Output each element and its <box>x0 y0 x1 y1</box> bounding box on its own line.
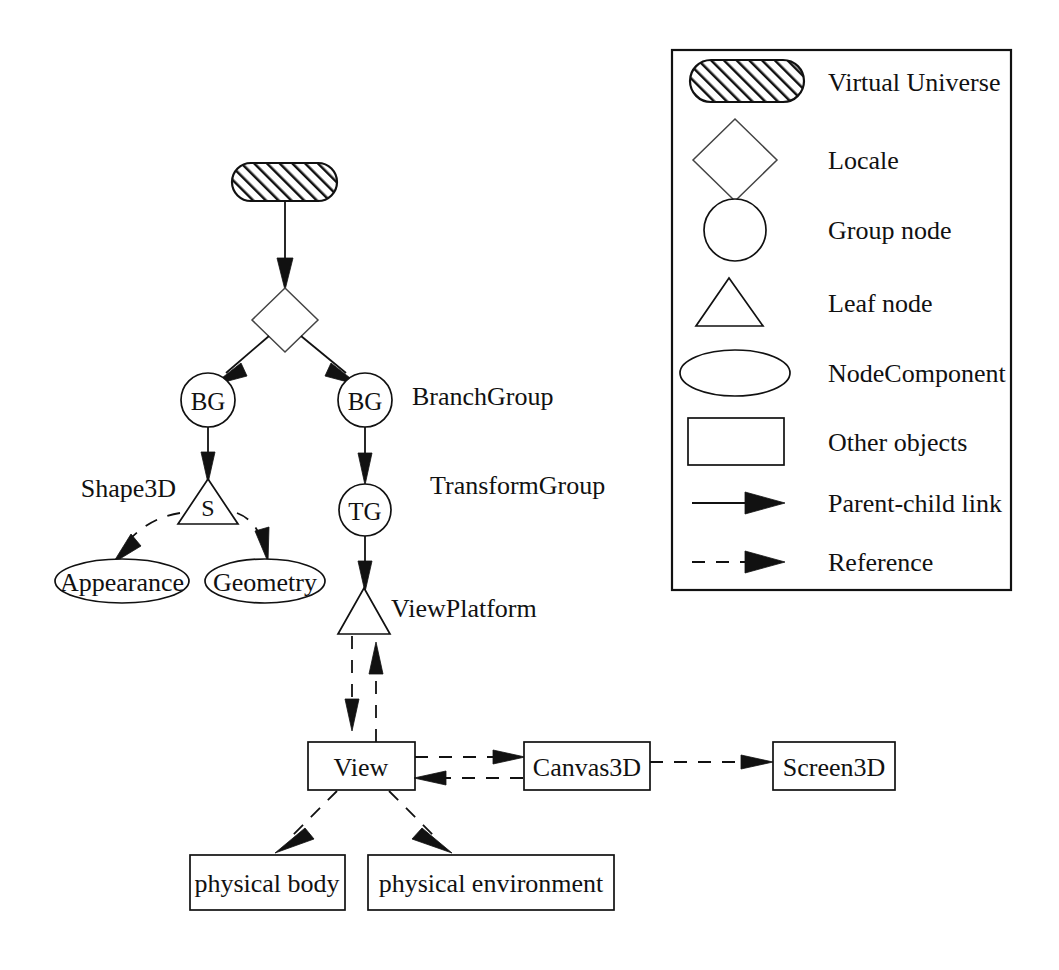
scene-graph-svg: BG BG BranchGroup S Shape3D <box>0 0 1059 970</box>
locale-icon <box>693 119 777 201</box>
bg-left-label: BG <box>191 388 226 415</box>
legend-label-group-node: Group node <box>828 216 951 245</box>
arrow-head-icon <box>358 453 372 485</box>
canvas3d-label: Canvas3D <box>533 753 641 782</box>
shape3d-label-inner: S <box>201 495 214 521</box>
physical-environment-label: physical environment <box>379 869 604 898</box>
arrow-head-icon <box>255 527 269 562</box>
screen3d-label: Screen3D <box>783 753 886 782</box>
group-node-icon <box>704 199 766 261</box>
ref-view-to-physical-environment <box>389 791 452 853</box>
other-objects-icon <box>688 418 784 465</box>
ref-shape3d-to-appearance <box>113 513 180 563</box>
viewplatform-annotation: ViewPlatform <box>391 594 537 623</box>
node-transform-group[interactable]: TG <box>339 484 391 536</box>
node-screen3d[interactable]: Screen3D <box>773 742 895 790</box>
view-platform-shape <box>338 588 390 634</box>
view-label: View <box>334 753 389 782</box>
legend-item-other-objects[interactable]: Other objects <box>688 418 967 465</box>
legend-label-parent-child-link: Parent-child link <box>828 489 1002 518</box>
legend-item-virtual-universe[interactable]: Virtual Universe <box>690 60 1000 102</box>
arrow-head-icon <box>412 828 452 853</box>
legend-item-node-component[interactable]: NodeComponent <box>680 350 1006 396</box>
legend-item-group-node[interactable]: Group node <box>704 199 951 261</box>
branchgroup-annotation: BranchGroup <box>412 382 554 411</box>
node-component-icon <box>680 350 790 396</box>
ref-view-to-canvas3d <box>415 750 525 764</box>
legend-label-leaf-node: Leaf node <box>828 289 933 318</box>
node-view[interactable]: View <box>308 742 415 790</box>
node-view-platform[interactable] <box>338 588 390 634</box>
transform-group-label: TG <box>348 498 381 525</box>
node-canvas3d[interactable]: Canvas3D <box>524 742 650 790</box>
arrow-head-icon <box>493 750 525 764</box>
ref-shape3d-to-geometry <box>237 513 269 562</box>
arrow-head-icon <box>369 642 383 674</box>
legend-label-virtual-universe: Virtual Universe <box>828 68 1000 97</box>
bg-right-label: BG <box>348 388 383 415</box>
node-virtual-universe[interactable] <box>232 163 337 201</box>
shape3d-annotation: Shape3D <box>81 474 176 503</box>
node-physical-body[interactable]: physical body <box>190 855 345 910</box>
node-bg-right[interactable]: BG <box>338 373 392 427</box>
legend-item-reference[interactable]: Reference <box>692 548 933 577</box>
ref-canvas3d-to-screen3d <box>650 755 773 769</box>
arrow-head-icon <box>275 828 314 853</box>
node-bg-left[interactable]: BG <box>181 373 235 427</box>
link-universe-to-locale <box>277 201 293 290</box>
physical-body-label: physical body <box>194 869 339 898</box>
legend-item-parent-child-link[interactable]: Parent-child link <box>692 489 1002 518</box>
geometry-label: Geometry <box>213 568 317 597</box>
solid-arrow-icon <box>745 492 785 514</box>
link-bg-left-to-shape3d <box>201 427 215 483</box>
legend: Virtual Universe Locale Group node Leaf … <box>672 50 1011 590</box>
node-shape3d[interactable]: S <box>178 479 238 524</box>
legend-label-locale: Locale <box>828 146 899 175</box>
legend-item-locale[interactable]: Locale <box>693 119 899 201</box>
arrow-head-icon <box>358 561 372 592</box>
legend-item-leaf-node[interactable]: Leaf node <box>696 278 933 326</box>
node-appearance[interactable]: Appearance <box>55 559 189 603</box>
transformgroup-annotation: TransformGroup <box>430 471 605 500</box>
virtual-universe-icon <box>690 60 804 102</box>
legend-label-reference: Reference <box>828 548 933 577</box>
ref-view-to-physical-body <box>275 791 337 853</box>
diagram-canvas: BG BG BranchGroup S Shape3D <box>0 0 1059 970</box>
node-geometry[interactable]: Geometry <box>205 559 325 603</box>
arrow-head-icon <box>277 258 293 290</box>
legend-label-other-objects: Other objects <box>828 428 967 457</box>
ref-view-to-viewplatform <box>369 642 383 742</box>
node-physical-environment[interactable]: physical environment <box>368 855 614 910</box>
arrow-head-icon <box>345 699 359 731</box>
ref-canvas3d-to-view <box>414 771 523 785</box>
link-bg-right-to-tg <box>358 427 372 485</box>
link-tg-to-viewplatform <box>358 536 372 592</box>
arrow-head-icon <box>414 771 446 785</box>
arrow-head-icon <box>741 755 773 769</box>
dashed-arrow-icon <box>745 551 785 573</box>
appearance-label: Appearance <box>60 568 184 597</box>
virtual-universe-shape <box>232 163 337 201</box>
legend-label-node-component: NodeComponent <box>828 359 1006 388</box>
ref-viewplatform-to-view <box>345 636 359 731</box>
leaf-node-icon <box>696 278 763 326</box>
